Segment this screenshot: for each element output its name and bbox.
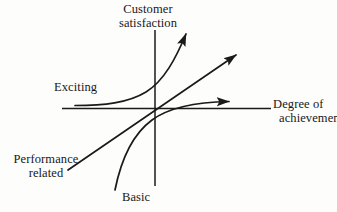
y-axis-label: Customer satisfaction — [100, 2, 196, 30]
basic-curve-label: Basic — [122, 190, 150, 204]
performance-related-label-line1: Performance — [14, 152, 79, 166]
performance-related-line — [68, 55, 236, 170]
x-axis-label: Degree of achievement — [273, 97, 337, 125]
performance-related-label-line2: related — [29, 166, 64, 180]
kano-model-diagram: Customer satisfaction Degree of achievem… — [0, 0, 337, 212]
y-axis-label-line1: Customer — [123, 2, 172, 16]
y-axis-label-line2: satisfaction — [119, 16, 177, 30]
x-axis-label-line1: Degree of — [273, 97, 324, 111]
exciting-curve-label: Exciting — [54, 80, 97, 94]
basic-curve — [115, 102, 229, 191]
performance-related-curve-label: Performance related — [6, 152, 86, 180]
x-axis-label-line2: achievement — [279, 111, 337, 125]
exciting-curve — [75, 34, 186, 106]
